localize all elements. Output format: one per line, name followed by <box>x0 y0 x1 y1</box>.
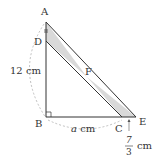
fraction-numerator: 7 <box>126 135 132 145</box>
unit-cm: cm <box>77 123 96 134</box>
shaded-triangle-ADF <box>46 22 87 77</box>
label-F: F <box>85 66 92 77</box>
label-A: A <box>40 6 49 17</box>
label-AB-length: 12 cm <box>10 65 42 76</box>
right-angle-mark <box>46 112 51 117</box>
fraction-unit: cm <box>137 140 153 151</box>
fraction-denominator: 3 <box>126 147 132 157</box>
shaded-triangle-FCE <box>87 77 136 117</box>
arrow-head-icon <box>128 119 131 122</box>
label-BC-length: a cm <box>71 123 96 134</box>
label-D: D <box>34 36 42 47</box>
label-B: B <box>35 118 42 129</box>
segment-DC <box>46 41 122 117</box>
label-C: C <box>115 123 123 134</box>
geometry-diagram: A D B C E F 12 cm a cm 7 3 cm <box>0 0 161 166</box>
label-E: E <box>139 116 146 127</box>
